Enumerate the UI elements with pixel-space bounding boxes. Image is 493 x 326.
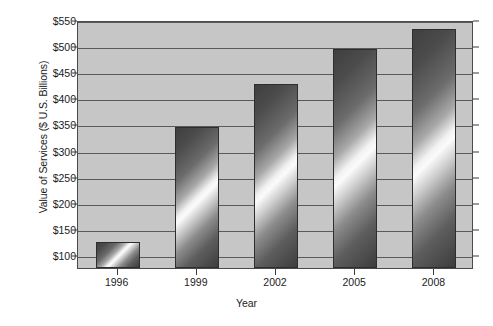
y-axis-tick-mark bbox=[72, 229, 77, 230]
y-axis-tick-mark bbox=[72, 73, 77, 74]
y-axis-tick-label: $350 bbox=[32, 119, 76, 131]
bar-chart: Value of Services ($ U.S. Billions) $100… bbox=[0, 0, 493, 326]
x-axis-tick-label: 1999 bbox=[184, 276, 207, 288]
y-axis-tick-mark bbox=[72, 21, 77, 22]
y-axis-tick-mark bbox=[72, 255, 77, 256]
y-axis-tick-mark-right bbox=[473, 177, 479, 178]
y-axis-tick-label: $400 bbox=[32, 93, 76, 105]
y-axis-tick-label: $550 bbox=[32, 15, 76, 27]
y-axis-tick-mark bbox=[72, 125, 77, 126]
y-axis-tick-mark-right bbox=[473, 47, 479, 48]
y-axis-tick-mark bbox=[72, 47, 77, 48]
y-axis-tick-mark-right bbox=[473, 125, 479, 126]
plot-area bbox=[77, 21, 473, 269]
x-axis-tick-mark bbox=[196, 269, 197, 275]
bar bbox=[175, 127, 219, 268]
y-axis-tick-mark-right bbox=[473, 203, 479, 204]
x-axis-tick-label: 2002 bbox=[263, 276, 286, 288]
y-axis-tick-label: $100 bbox=[32, 250, 76, 262]
x-axis-tick-mark bbox=[433, 269, 434, 275]
bar bbox=[96, 242, 140, 268]
bar bbox=[412, 29, 456, 268]
y-axis-tick-labels: $100$150$200$250$300$350$400$450$500$550 bbox=[32, 0, 76, 326]
y-axis-tick-mark bbox=[72, 99, 77, 100]
y-axis-tick-label: $150 bbox=[32, 224, 76, 236]
y-axis-tick-mark-right bbox=[473, 255, 479, 256]
y-axis-tick-mark-right bbox=[473, 229, 479, 230]
y-axis-tick-label: $250 bbox=[32, 172, 76, 184]
bar bbox=[333, 49, 377, 268]
y-axis-tick-mark bbox=[72, 151, 77, 152]
x-axis-tick-mark bbox=[275, 269, 276, 275]
x-axis-tick-label: 1996 bbox=[105, 276, 128, 288]
bar bbox=[254, 84, 298, 268]
y-axis-tick-label: $450 bbox=[32, 67, 76, 79]
y-axis-tick-mark-right bbox=[473, 73, 479, 74]
y-axis-tick-label: $500 bbox=[32, 41, 76, 53]
y-axis-tick-label: $300 bbox=[32, 146, 76, 158]
y-axis-tick-label: $200 bbox=[32, 198, 76, 210]
y-axis-tick-mark bbox=[72, 177, 77, 178]
x-axis-tick-mark bbox=[354, 269, 355, 275]
x-axis-tick-label: 2008 bbox=[422, 276, 445, 288]
y-axis-tick-mark bbox=[72, 203, 77, 204]
y-axis-tick-mark-right bbox=[473, 99, 479, 100]
x-axis-tick-mark bbox=[117, 269, 118, 275]
gridline bbox=[78, 22, 472, 23]
y-axis-tick-mark-right bbox=[473, 21, 479, 22]
y-axis-tick-mark-right bbox=[473, 151, 479, 152]
x-axis-tick-label: 2005 bbox=[343, 276, 366, 288]
x-axis-title: Year bbox=[0, 297, 493, 309]
